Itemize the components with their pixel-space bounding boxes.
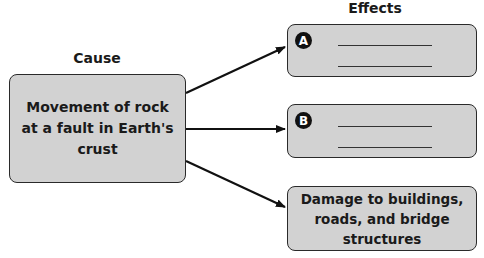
cause-box: Movement of rock at a fault in Earth's c… bbox=[9, 74, 186, 183]
effect-box-a: A bbox=[287, 24, 477, 77]
blank-line-2[interactable] bbox=[338, 147, 432, 148]
effects-heading: Effects bbox=[325, 0, 425, 16]
badge-a-icon: A bbox=[295, 32, 312, 49]
blank-line-1[interactable] bbox=[338, 45, 432, 46]
cause-heading: Cause bbox=[47, 50, 147, 66]
arrow-to-effect-a bbox=[186, 47, 285, 93]
effect-box-b: B bbox=[287, 104, 477, 158]
effect-c-text: Damage to buildings, roads, and bridge s… bbox=[294, 189, 470, 249]
blank-line-2[interactable] bbox=[338, 66, 432, 67]
effect-box-c: Damage to buildings, roads, and bridge s… bbox=[287, 186, 477, 251]
arrow-to-effect-c bbox=[186, 161, 285, 207]
cause-text: Movement of rock at a fault in Earth's c… bbox=[18, 97, 177, 160]
badge-b-icon: B bbox=[295, 112, 312, 129]
blank-line-1[interactable] bbox=[338, 126, 432, 127]
